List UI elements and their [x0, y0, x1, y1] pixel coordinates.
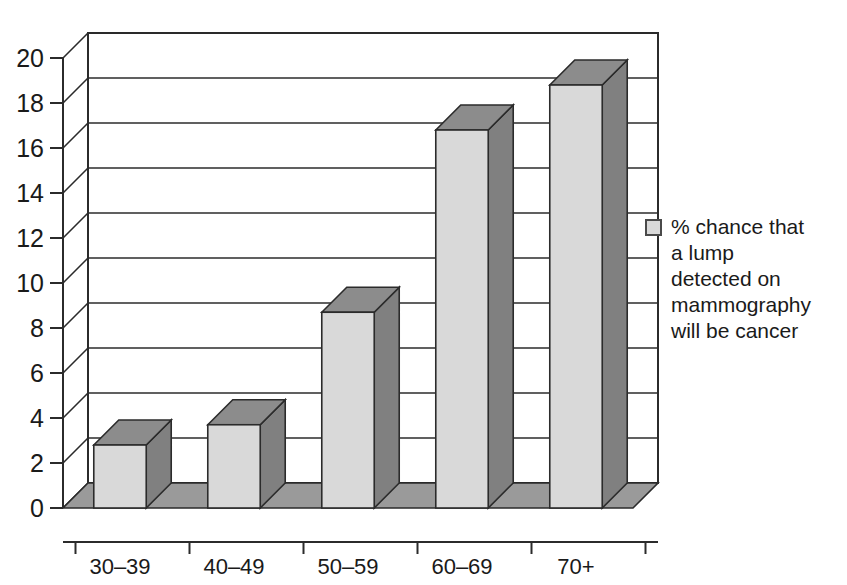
y-axis-tick-labels: 02468101214161820 [16, 44, 63, 522]
y-axis-tick-label: 12 [16, 224, 44, 252]
y-axis-tick-label: 6 [30, 359, 44, 387]
bar [208, 400, 285, 508]
x-axis-tick-label: 30–39 [89, 554, 150, 579]
y-axis-tick-label: 0 [30, 494, 44, 522]
x-axis-tick-label: 70+ [557, 554, 594, 579]
y-axis-tick-label: 10 [16, 269, 44, 297]
x-axis-tick-label: 40–49 [203, 554, 264, 579]
legend-swatch-icon [645, 219, 662, 236]
y-axis-tick-label: 16 [16, 134, 44, 162]
chart-legend: % chance that a lump detected on mammogr… [645, 214, 845, 344]
chart-container: 02468101214161820 30–3940–4950–5960–6970… [0, 0, 847, 585]
y-axis-tick-label: 14 [16, 179, 44, 207]
x-axis-tick-label: 60–69 [431, 554, 492, 579]
y-axis-tick-label: 8 [30, 314, 44, 342]
bar [322, 287, 399, 508]
y-axis-tick-label: 20 [16, 44, 44, 72]
x-axis-tick-labels: 30–3940–4950–5960–6970+ [76, 542, 646, 579]
y-axis-tick-label: 2 [30, 449, 44, 477]
y-axis-tick-label: 18 [16, 89, 44, 117]
legend-label: % chance that a lump detected on mammogr… [671, 214, 811, 344]
bar [94, 420, 171, 508]
bar [550, 60, 627, 508]
bar [436, 105, 513, 508]
y-axis-tick-label: 4 [30, 404, 44, 432]
x-axis-tick-label: 50–59 [317, 554, 378, 579]
